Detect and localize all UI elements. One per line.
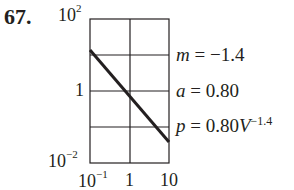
annotation-coefficient: a = 0.80 (176, 80, 239, 102)
plot-area (0, 0, 294, 190)
annotation-slope: m = −1.4 (176, 44, 244, 66)
annotation-equation: p = 0.80V−1.4 (176, 114, 272, 137)
